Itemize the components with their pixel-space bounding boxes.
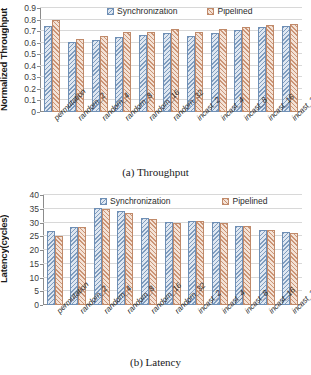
y-tick-label: 5 (34, 286, 39, 296)
x-label-cell: incast_2 (184, 307, 208, 362)
y-axis-title-throughput: Normalized Throughput (0, 6, 9, 114)
y-tick-label: 35 (30, 204, 39, 214)
y-tick-label: 25 (30, 231, 39, 241)
x-label-cell: incast_4 (208, 307, 232, 362)
x-label-cell: random_2 (64, 114, 88, 169)
x-label-cell: incast_16 (254, 114, 278, 169)
x-label-cell: random_32 (161, 307, 185, 362)
chart-panel-latency: Latency(cycles) Synchronization Pipeline… (0, 188, 311, 375)
y-tick-label: 0.7 (24, 26, 36, 36)
y-tick-label: 0.5 (24, 49, 36, 59)
y-tick-label: 40 (30, 190, 39, 200)
caption-latency: (b) Latency (0, 356, 311, 368)
x-label-cell: permutation (43, 307, 67, 362)
x-label-cell: permutation (40, 114, 64, 169)
bar-synchronization (47, 231, 55, 305)
y-tick-label: 15 (30, 259, 39, 269)
bar-pipelined (52, 20, 60, 112)
y-tick-label: 0.1 (24, 95, 36, 105)
x-label-cell: random_16 (137, 307, 161, 362)
x-label-cell: random_4 (90, 307, 114, 362)
x-label-cell: incast_32 (278, 114, 302, 169)
y-tick-label: 30 (30, 218, 39, 228)
x-label-cell: incast_32 (278, 307, 302, 362)
x-label-cell: random_32 (159, 114, 183, 169)
y-tick-label: 0.4 (24, 61, 36, 71)
bar-synchronization (44, 26, 52, 112)
bar-group (255, 195, 279, 305)
x-label-cell: incast_8 (231, 114, 255, 169)
bar-group (207, 8, 231, 112)
bar-group (43, 195, 67, 305)
x-label-cell: incast_4 (207, 114, 231, 169)
x-axis-labels-latency: permutationrandom_2random_4random_8rando… (0, 307, 311, 362)
bar-group (254, 8, 278, 112)
chart-panel-throughput: Normalized Throughput Synchronization Pi… (0, 0, 311, 188)
x-label-cell: random_16 (135, 114, 159, 169)
y-tick-label: 0.3 (24, 72, 36, 82)
y-tick-label: 20 (30, 245, 39, 255)
y-tick-label: 0.2 (24, 84, 36, 94)
bar-pipelined (266, 25, 274, 112)
y-tick-label: 10 (30, 273, 39, 283)
figure-container: Normalized Throughput Synchronization Pi… (0, 0, 311, 375)
y-tick-label: 0.9 (24, 3, 36, 13)
x-label-cell: random_8 (111, 114, 135, 169)
bar-group (231, 195, 255, 305)
y-axis-title-latency: Latency(cycles) (0, 193, 9, 305)
x-axis-labels-throughput: permutationrandom_2random_4random_8rando… (0, 114, 311, 169)
caption-throughput: (a) Throughput (0, 166, 311, 178)
tick-mark (37, 112, 40, 113)
x-label-cell: random_2 (67, 307, 91, 362)
x-label-cell: random_8 (114, 307, 138, 362)
bar-group (40, 8, 64, 112)
x-label-cell: incast_2 (183, 114, 207, 169)
bar-group (231, 8, 255, 112)
x-label-cell: incast_16 (255, 307, 279, 362)
bar-pipelined (55, 236, 63, 305)
y-tick-label: 0.8 (24, 15, 36, 25)
x-label-cell: random_4 (88, 114, 112, 169)
x-label-cell: incast_8 (231, 307, 255, 362)
y-tick-label: 0.6 (24, 38, 36, 48)
bar-group (208, 195, 232, 305)
tick-mark (40, 305, 43, 306)
